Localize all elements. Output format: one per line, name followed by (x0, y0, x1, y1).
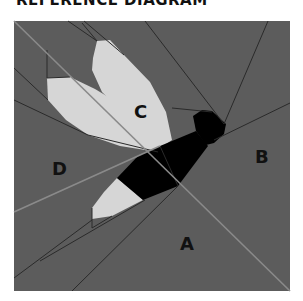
region-label-a: A (180, 233, 194, 254)
region-label-b: B (255, 146, 269, 167)
region-label-c: C (134, 101, 147, 122)
region-label-d: D (52, 158, 67, 179)
reference-diagram: C B D A (0, 0, 303, 301)
